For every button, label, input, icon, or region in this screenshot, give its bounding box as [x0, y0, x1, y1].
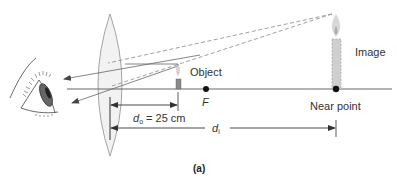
near-point-dot [333, 86, 339, 92]
near-point-label: Near point [310, 100, 361, 112]
do-label: do = 25 cm [133, 112, 186, 125]
image-candle [332, 14, 341, 89]
image-label: Image [355, 46, 386, 58]
focal-point-dot [203, 86, 209, 92]
di-label: di [212, 122, 220, 135]
di-subscript: i [218, 128, 220, 135]
object-candle [176, 66, 181, 89]
eye-icon [10, 58, 58, 117]
magnifier-diagram: Object Image F Near point do = 25 cm di … [0, 0, 397, 183]
figure-caption: (a) [193, 163, 205, 174]
focal-point-label: F [202, 96, 209, 108]
object-label: Object [190, 66, 222, 78]
do-value: = 25 cm [143, 112, 186, 124]
